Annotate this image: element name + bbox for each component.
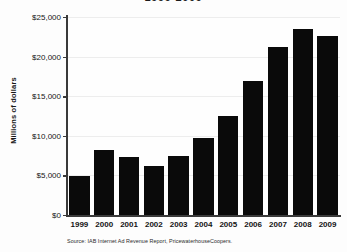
bar: [293, 29, 313, 215]
plot-area: $0$5,000$10,000$15,000$20,000$25,000 199…: [67, 17, 340, 215]
bar: [243, 81, 263, 215]
bar-slot: 2002: [141, 17, 166, 215]
bar-slot: 2004: [191, 17, 216, 215]
bar-slot: 2001: [117, 17, 142, 215]
x-axis-tick-label: 2005: [216, 220, 241, 229]
chart-title: 1999-2009: [0, 0, 347, 3]
x-axis-tick-label: 2000: [92, 220, 117, 229]
x-axis-line: [66, 215, 341, 217]
chart-page: 1999-2009 Millions of dollars $0$5,000$1…: [0, 0, 347, 252]
x-axis-tick-label: 2006: [241, 220, 266, 229]
bar-series: 1999200020012002200320042005200620072008…: [67, 17, 340, 215]
bar: [69, 176, 89, 215]
x-axis-tick-label: 2009: [315, 220, 340, 229]
x-axis-tick-label: 2004: [191, 220, 216, 229]
x-axis-tick-label: 2007: [266, 220, 291, 229]
y-axis-tick-label: $5,000: [37, 171, 61, 180]
chart-title-clipped: 1999-2009: [0, 0, 347, 5]
x-axis-tick-label: 2001: [117, 220, 142, 229]
bar-slot: 2007: [266, 17, 291, 215]
source-note: Source: IAB Internet Ad Revenue Report, …: [67, 238, 232, 244]
x-axis-tick-label: 2008: [290, 220, 315, 229]
bar: [193, 138, 213, 215]
bar-slot: 2003: [166, 17, 191, 215]
bar: [144, 166, 164, 215]
y-axis-tick-label: $15,000: [32, 92, 61, 101]
bar-slot: 2006: [241, 17, 266, 215]
bar: [94, 150, 114, 215]
bar: [317, 36, 337, 215]
bar-slot: 1999: [67, 17, 92, 215]
bar: [119, 157, 139, 215]
y-axis-tick-label: $20,000: [32, 52, 61, 61]
x-axis-tick-label: 1999: [67, 220, 92, 229]
bar-slot: 2000: [92, 17, 117, 215]
y-axis-title: Millions of dollars: [9, 51, 18, 171]
bar: [168, 156, 188, 215]
x-axis-tick-label: 2002: [141, 220, 166, 229]
y-axis-tick-label: $10,000: [32, 131, 61, 140]
bar-slot: 2005: [216, 17, 241, 215]
y-axis-tick-label: $25,000: [32, 13, 61, 22]
bar-slot: 2008: [290, 17, 315, 215]
bar: [218, 116, 238, 215]
bar: [268, 47, 288, 215]
y-axis-tick-label: $0: [52, 211, 61, 220]
bar-slot: 2009: [315, 17, 340, 215]
x-axis-tick-label: 2003: [166, 220, 191, 229]
